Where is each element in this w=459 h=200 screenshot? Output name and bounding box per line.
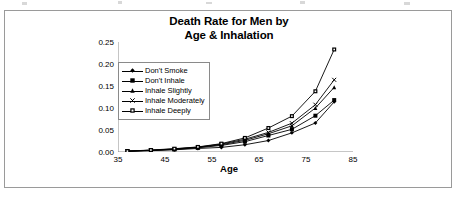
page-canvas: Death Rate for Men by Age & Inhalation D… — [0, 0, 459, 200]
x-tick-label: 75 — [302, 155, 311, 164]
data-point — [290, 127, 294, 131]
y-tick-label: 0.25 — [98, 38, 114, 47]
legend-glyph-cross — [129, 97, 136, 104]
chart-title: Death Rate for Men by Age & Inhalation — [5, 15, 453, 42]
legend-glyph-shape — [130, 108, 134, 112]
legend-marker-triangle-icon — [122, 86, 143, 96]
scan-speck — [206, 2, 212, 4]
chart-title-line-1: Death Rate for Men by — [5, 15, 453, 29]
legend-item[interactable]: Don't Smoke — [122, 66, 205, 76]
legend-label: Inhale Deeply — [145, 106, 191, 116]
data-point — [243, 136, 247, 140]
y-tick-label: 0.10 — [98, 104, 114, 113]
chart-legend: Don't SmokeDon't InhaleInhale SlightlyIn… — [118, 62, 210, 120]
y-tick-label: 0.15 — [98, 82, 114, 91]
x-tick-label: 55 — [208, 155, 217, 164]
data-point — [196, 145, 200, 149]
x-tick-label: 45 — [161, 155, 170, 164]
x-tick-label: 35 — [114, 155, 123, 164]
legend-marker-cross-icon — [122, 96, 143, 106]
scan-top-margin — [0, 0, 459, 9]
scan-speck — [404, 2, 410, 5]
data-point — [219, 142, 223, 146]
y-tick-label: 0.00 — [98, 148, 114, 157]
legend-glyph-square — [129, 77, 136, 84]
x-axis-label: Age — [5, 163, 453, 174]
legend-label: Inhale Slightly — [145, 86, 192, 96]
legend-glyph-diamond — [129, 67, 136, 74]
data-point — [332, 98, 336, 102]
x-tick-label: 65 — [255, 155, 264, 164]
legend-marker-square-icon — [122, 76, 143, 86]
scan-speck — [22, 2, 27, 5]
data-point — [313, 114, 317, 118]
y-tick-label: 0.05 — [98, 126, 114, 135]
legend-glyph-triangle — [129, 87, 136, 94]
data-point — [332, 47, 336, 51]
chart-title-line-2: Age & Inhalation — [5, 29, 453, 43]
legend-item[interactable]: Inhale Deeply — [122, 106, 205, 116]
scan-speck — [118, 1, 122, 4]
legend-item[interactable]: Inhale Moderately — [122, 96, 205, 106]
y-tick-label: 0.20 — [98, 60, 114, 69]
legend-glyph-shape — [130, 98, 134, 102]
legend-glyph-shape — [130, 78, 134, 82]
data-point — [266, 126, 270, 130]
legend-item[interactable]: Don't Inhale — [122, 76, 205, 86]
data-point — [290, 131, 294, 135]
legend-glyph-shape — [130, 68, 134, 72]
data-point — [125, 149, 129, 152]
data-point — [332, 78, 336, 82]
legend-glyph-dotted-square — [129, 107, 136, 114]
legend-marker-diamond-icon — [122, 66, 143, 76]
legend-marker-dotted-square-icon — [122, 106, 143, 116]
legend-label: Inhale Moderately — [145, 96, 205, 106]
scan-speck — [300, 1, 305, 4]
data-point — [313, 89, 317, 93]
data-point — [172, 147, 176, 151]
data-point — [332, 85, 336, 89]
chart-frame: Death Rate for Men by Age & Inhalation D… — [4, 10, 452, 188]
legend-label: Don't Smoke — [145, 66, 188, 76]
data-point — [290, 114, 294, 118]
data-point — [149, 148, 153, 152]
legend-label: Don't Inhale — [145, 76, 185, 86]
chart-figure: Death Rate for Men by Age & Inhalation D… — [5, 11, 453, 189]
legend-glyph-shape — [130, 88, 134, 92]
legend-item[interactable]: Inhale Slightly — [122, 86, 205, 96]
x-tick-label: 85 — [349, 155, 358, 164]
data-point — [266, 139, 270, 143]
plot-area: 0.000.050.100.150.200.25 354555657585 Do… — [118, 42, 353, 152]
